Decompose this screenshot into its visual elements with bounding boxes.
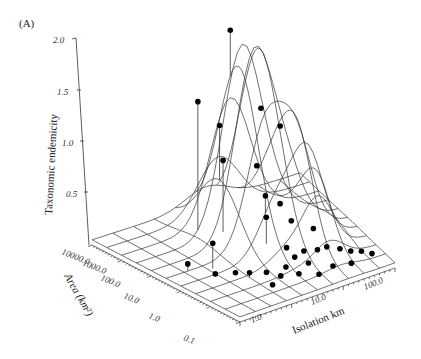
data-point	[270, 282, 276, 288]
svg-text:0.5: 0.5	[66, 189, 78, 199]
data-point	[212, 271, 218, 277]
data-point	[264, 269, 270, 275]
data-point	[283, 264, 289, 270]
data-point	[288, 218, 294, 224]
data-point	[217, 123, 223, 129]
data-point	[195, 99, 201, 105]
svg-text:10.0: 10.0	[122, 291, 141, 306]
data-point	[292, 254, 298, 260]
data-point	[311, 226, 317, 232]
data-point	[254, 163, 260, 169]
3d-surface-chart: 2.0 1.5 1.0 0.5 Taxonomic endemicity 100…	[0, 0, 421, 359]
data-point	[316, 271, 322, 277]
z-axis-title: Taxonomic endemicity	[42, 113, 59, 215]
svg-text:1.0: 1.0	[62, 138, 74, 148]
data-point	[278, 273, 284, 279]
area-axis-title: Area (km²)	[61, 270, 97, 319]
data-point	[233, 270, 239, 276]
data-point	[359, 248, 365, 254]
svg-text:10.0: 10.0	[309, 291, 328, 306]
data-point	[263, 214, 269, 220]
z-axis	[72, 38, 89, 245]
data-points	[185, 27, 375, 287]
data-point	[220, 158, 226, 164]
data-point	[315, 247, 321, 253]
data-point	[277, 201, 283, 207]
svg-text:100.0: 100.0	[99, 273, 122, 290]
data-point	[324, 244, 330, 250]
svg-text:1.5: 1.5	[57, 87, 69, 97]
data-point	[301, 248, 307, 254]
svg-text:0.1: 0.1	[182, 333, 196, 346]
data-point	[210, 240, 216, 246]
data-point	[337, 246, 343, 252]
data-point	[258, 105, 264, 111]
data-point	[247, 270, 253, 276]
data-point	[306, 260, 312, 266]
data-point	[349, 260, 355, 266]
data-point	[185, 261, 191, 267]
svg-text:1.0: 1.0	[147, 311, 162, 325]
data-point	[263, 193, 269, 199]
data-point	[369, 251, 375, 257]
surface-mesh	[92, 44, 395, 317]
data-point	[277, 123, 283, 129]
data-point	[330, 263, 336, 269]
data-point	[227, 27, 233, 33]
data-point	[348, 248, 354, 254]
svg-text:100.0: 100.0	[362, 275, 385, 292]
isolation-axis-title: Isolation km	[290, 304, 346, 336]
data-point	[296, 271, 302, 277]
svg-text:2.0: 2.0	[53, 35, 65, 45]
data-point	[284, 245, 290, 251]
